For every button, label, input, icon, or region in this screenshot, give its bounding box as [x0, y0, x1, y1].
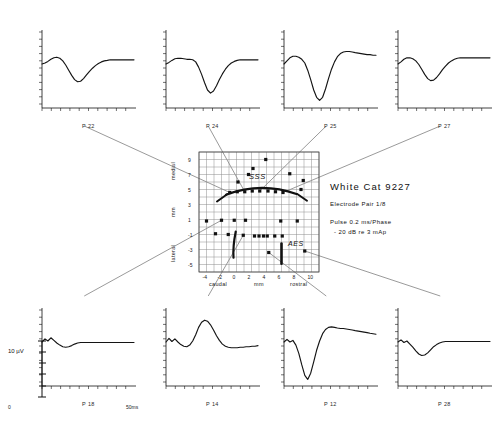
- x-axis-tick: 6: [278, 274, 281, 280]
- x-axis-tick: 4: [263, 274, 266, 280]
- y-axis-tick: 9: [188, 157, 191, 163]
- time-scale-label: 50ms: [126, 404, 138, 410]
- amplitude-scale-label: 10 µV: [8, 348, 24, 354]
- x-axis-tick: 2: [248, 274, 251, 280]
- time-zero-label: 0: [8, 404, 11, 410]
- y-axis-tick: -1: [188, 232, 192, 238]
- y-axis-tick: 5: [188, 187, 191, 193]
- y-axis-tick: 7: [188, 172, 191, 178]
- y-axis-tick: 1: [188, 217, 191, 223]
- y-axis-tick: -5: [188, 262, 192, 268]
- y-axis-tick: -3: [188, 247, 192, 253]
- x-axis-tick: 0: [233, 274, 236, 280]
- x-axis-tick: 10: [308, 274, 314, 280]
- x-axis-tick: -2: [218, 274, 222, 280]
- x-axis-tick: 8: [293, 274, 296, 280]
- x-axis-tick: -4: [203, 274, 207, 280]
- y-axis-tick: 3: [188, 202, 191, 208]
